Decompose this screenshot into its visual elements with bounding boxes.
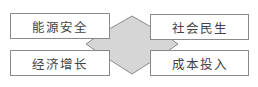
box-social-livelihood: 社会民生 — [150, 14, 249, 40]
diagram: 能源安全 社会民生 经济增长 成本投入 — [0, 0, 258, 87]
box-energy-security: 能源安全 — [10, 13, 110, 39]
box-cost-input: 成本投入 — [150, 50, 249, 76]
box-label: 社会民生 — [172, 18, 228, 37]
box-label: 能源安全 — [32, 17, 88, 36]
box-economic-growth: 经济增长 — [10, 50, 110, 76]
box-label: 成本投入 — [172, 54, 228, 73]
box-label: 经济增长 — [32, 54, 88, 73]
